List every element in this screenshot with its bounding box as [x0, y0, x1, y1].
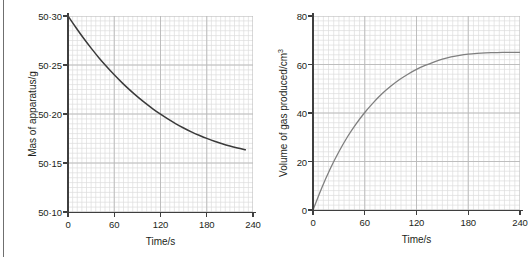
x-tick-label-3: 180 — [460, 217, 476, 228]
y-tick-1 — [63, 162, 68, 163]
y-axis-title-right-text: Volume of gas produced/cm — [278, 53, 289, 177]
x-tick-label-4: 240 — [512, 217, 528, 228]
y-tick-2 — [308, 112, 313, 113]
x-axis-line-left — [68, 212, 256, 213]
x-tick-label-3: 180 — [199, 219, 215, 230]
y-tick-4 — [308, 15, 313, 16]
y-tick-3 — [308, 64, 313, 65]
y-tick-4 — [63, 15, 68, 16]
y-tick-3 — [63, 64, 68, 65]
x-tick-1 — [114, 212, 115, 217]
data-curve-mass — [68, 16, 253, 212]
data-curve-gas-volume — [313, 16, 520, 210]
x-axis-title-left: Time/s — [146, 236, 176, 247]
y-tick-label-4: 80 — [271, 11, 307, 22]
plot-area-left — [68, 16, 253, 212]
y-tick-label-0: 0 — [271, 205, 307, 216]
y-tick-label-3: 50·25 — [26, 60, 62, 71]
x-tick-3 — [468, 210, 469, 215]
y-axis-title-right: Volume of gas produced/cm3 — [277, 49, 289, 177]
x-tick-2 — [160, 212, 161, 217]
plot-area-right — [313, 16, 520, 210]
y-tick-label-0: 50·10 — [26, 207, 62, 218]
y-tick-label-4: 50·30 — [26, 11, 62, 22]
x-tick-label-1: 60 — [109, 219, 119, 230]
x-tick-0 — [67, 212, 68, 217]
y-tick-label-1: 50·15 — [26, 158, 62, 169]
x-tick-1 — [364, 210, 365, 215]
x-tick-3 — [206, 212, 207, 217]
y-axis-title-right-superscript: 3 — [277, 49, 284, 53]
x-tick-4 — [519, 210, 520, 215]
chart-gas-volume-vs-time: 020406080 060120180240 Volume of gas pro… — [253, 0, 515, 257]
y-tick-1 — [308, 161, 313, 162]
x-tick-label-0: 0 — [65, 219, 70, 230]
y-axis-title-left: Mas of apparatus/g — [27, 71, 38, 157]
x-axis-line-right — [313, 210, 523, 211]
x-tick-0 — [312, 210, 313, 215]
chart-mass-vs-time: 50·1050·1550·2050·2550·30 060120180240 M… — [0, 0, 262, 257]
x-tick-2 — [416, 210, 417, 215]
x-tick-label-1: 60 — [360, 217, 370, 228]
x-tick-label-2: 120 — [153, 219, 169, 230]
x-tick-label-0: 0 — [310, 217, 315, 228]
y-tick-2 — [63, 113, 68, 114]
x-tick-label-2: 120 — [409, 217, 425, 228]
x-axis-title-right: Time/s — [402, 234, 432, 245]
